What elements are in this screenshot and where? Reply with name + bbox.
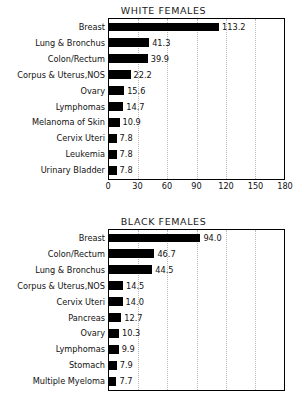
bar-row: Cervix Uteri7.8 <box>109 131 284 147</box>
plot-wrap-black-females: Breast94.0Colon/Rectum46.7Lung & Bronchu… <box>108 229 285 391</box>
bar-row: Lung & Bronchus41.3 <box>109 35 284 51</box>
chart-title-black-females: BLACK FEMALES <box>0 215 303 229</box>
bar-category-label: Lymphomas <box>0 342 105 358</box>
bar-value-label: 15.6 <box>127 83 145 99</box>
bar-row: Leukemia7.8 <box>109 147 284 163</box>
bar-category-label: Corpus & Uterus,NOS <box>0 67 105 83</box>
bar-category-label: Urinary Bladder <box>0 162 105 178</box>
bar <box>109 38 149 47</box>
bar <box>109 54 148 63</box>
bar-row: Corpus & Uterus,NOS22.2 <box>109 67 284 83</box>
chart-black-females: BLACK FEMALES Breast94.0Colon/Rectum46.7… <box>0 215 303 402</box>
bar-row: Pancreas12.7 <box>109 310 284 326</box>
bar-value-label: 7.8 <box>120 131 133 147</box>
bar-value-label: 7.8 <box>120 147 133 163</box>
bar-value-label: 113.2 <box>222 19 245 35</box>
bar-category-label: Ovary <box>0 83 105 99</box>
bar-category-label: Colon/Rectum <box>0 51 105 67</box>
bar-category-label: Breast <box>0 19 105 35</box>
bar-row: Ovary10.3 <box>109 326 284 342</box>
x-axis-white-females: 0306090120150180 <box>108 180 285 196</box>
x-tick-label: 180 <box>277 182 293 190</box>
bar-row: Ovary15.6 <box>109 83 284 99</box>
bar-category-label: Stomach <box>0 358 105 374</box>
bar-category-label: Corpus & Uterus,NOS <box>0 278 105 294</box>
x-tick-label: 30 <box>132 182 142 190</box>
bar <box>109 313 121 322</box>
bar-rows-white-females: Breast113.2Lung & Bronchus41.3Colon/Rect… <box>109 19 284 179</box>
bar-value-label: 12.7 <box>124 310 142 326</box>
plot-wrap-white-females: Breast113.2Lung & Bronchus41.3Colon/Rect… <box>108 18 285 180</box>
bar <box>109 234 200 243</box>
bar <box>109 361 117 370</box>
bar-row: Colon/Rectum46.7 <box>109 246 284 262</box>
bar-category-label: Melanoma of Skin <box>0 115 105 131</box>
bar <box>109 102 123 111</box>
bar-value-label: 46.7 <box>157 246 175 262</box>
bar-row: Lymphomas9.9 <box>109 342 284 358</box>
bar-value-label: 39.9 <box>151 51 169 67</box>
bar-value-label: 44.5 <box>155 262 173 278</box>
bar <box>109 377 116 386</box>
bar-row: Corpus & Uterus,NOS14.5 <box>109 278 284 294</box>
x-tick-label: 90 <box>191 182 201 190</box>
bar-row: Breast113.2 <box>109 19 284 35</box>
chart-white-females: WHITE FEMALES Breast113.2Lung & Bronchus… <box>0 4 303 196</box>
bar <box>109 23 219 32</box>
bar-category-label: Cervix Uteri <box>0 131 105 147</box>
bar-row: Multiple Myeloma7.7 <box>109 373 284 389</box>
bar <box>109 150 117 159</box>
bar-value-label: 14.0 <box>126 294 144 310</box>
bar-row: Melanoma of Skin10.9 <box>109 115 284 131</box>
x-tick-label: 0 <box>105 182 110 190</box>
bar-value-label: 9.9 <box>122 342 135 358</box>
bar <box>109 86 124 95</box>
bar-row: Stomach7.9 <box>109 358 284 374</box>
bar <box>109 134 117 143</box>
x-tick-label: 60 <box>162 182 172 190</box>
bar-row: Lung & Bronchus44.5 <box>109 262 284 278</box>
bar <box>109 249 154 258</box>
bar-category-label: Ovary <box>0 326 105 342</box>
bar-row: Cervix Uteri14.0 <box>109 294 284 310</box>
x-tick-label: 150 <box>248 182 264 190</box>
bar-value-label: 10.9 <box>123 115 141 131</box>
bar-value-label: 7.7 <box>119 373 132 389</box>
bar-value-label: 7.8 <box>120 162 133 178</box>
bar-category-label: Lung & Bronchus <box>0 35 105 51</box>
bar-rows-black-females: Breast94.0Colon/Rectum46.7Lung & Bronchu… <box>109 230 284 390</box>
chart-title-white-females: WHITE FEMALES <box>0 4 303 18</box>
bar-value-label: 14.7 <box>126 99 144 115</box>
bar-row: Colon/Rectum39.9 <box>109 51 284 67</box>
plot-area-black-females: Breast94.0Colon/Rectum46.7Lung & Bronchu… <box>108 229 285 391</box>
x-axis-black-females <box>108 391 285 402</box>
bar-row: Lymphomas14.7 <box>109 99 284 115</box>
bar-category-label: Pancreas <box>0 310 105 326</box>
bar <box>109 118 120 127</box>
bar-row: Breast94.0 <box>109 230 284 246</box>
bar-value-label: 14.5 <box>126 278 144 294</box>
bar <box>109 265 152 274</box>
bar <box>109 345 119 354</box>
bar-category-label: Breast <box>0 230 105 246</box>
bar <box>109 281 123 290</box>
bar-category-label: Cervix Uteri <box>0 294 105 310</box>
bar-row: Urinary Bladder7.8 <box>109 162 284 178</box>
bar-value-label: 94.0 <box>203 230 221 246</box>
bar-value-label: 41.3 <box>152 35 170 51</box>
plot-area-white-females: Breast113.2Lung & Bronchus41.3Colon/Rect… <box>108 18 285 180</box>
x-tick-label: 120 <box>218 182 234 190</box>
bar-category-label: Lymphomas <box>0 99 105 115</box>
bar <box>109 329 119 338</box>
bar <box>109 70 131 79</box>
bar-category-label: Lung & Bronchus <box>0 262 105 278</box>
bar-category-label: Colon/Rectum <box>0 246 105 262</box>
bar-value-label: 10.3 <box>122 326 140 342</box>
bar-value-label: 7.9 <box>120 358 133 374</box>
bar-category-label: Multiple Myeloma <box>0 373 105 389</box>
bar-category-label: Leukemia <box>0 147 105 163</box>
bar <box>109 166 117 175</box>
bar-value-label: 22.2 <box>134 67 152 83</box>
bar <box>109 297 123 306</box>
